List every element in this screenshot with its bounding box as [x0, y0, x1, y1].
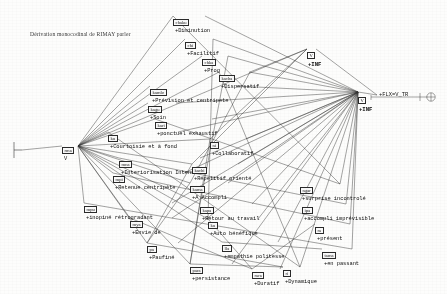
derivation-node[interactable]: pa+Paufiné: [147, 237, 174, 261]
root-tag: rma: [62, 147, 74, 154]
derivation-node[interactable]: para+persistance: [190, 258, 230, 282]
derivation-node[interactable]: ni+Collaboratif: [210, 133, 253, 157]
hub-upper-inf[interactable]: V +INF: [307, 43, 321, 68]
diagram-canvas: Dérivation monocodinal de RIMAY parler r…: [0, 0, 447, 294]
node-feature: +Dynamique: [285, 279, 317, 285]
derivation-node[interactable]: ri+Dynamique: [283, 261, 317, 285]
node-tag: ra: [315, 227, 324, 234]
node-tag: mpu: [84, 206, 97, 213]
derivation-node[interactable]: ra+présent: [315, 218, 342, 242]
node-feature: +en passant: [324, 261, 359, 267]
derivation-node[interactable]: ku+Auto bénéfique: [208, 213, 258, 237]
node-tag: pa: [147, 246, 157, 253]
node-feature: +Duratif: [254, 281, 279, 287]
node-tag: tama: [322, 252, 336, 259]
derivation-node[interactable]: ku+Courtoisie et à fond: [108, 126, 177, 150]
derivation-node[interactable]: rara+Duratif: [252, 263, 279, 287]
node-feature: +Courtoisie et à fond: [110, 144, 177, 150]
document-title: Dérivation monocodinal de RIMAY parler: [30, 31, 131, 37]
node-feature: +Prog: [204, 68, 220, 74]
node-tag: ipa: [302, 207, 313, 214]
node-feature: +Retenue centripète: [115, 185, 176, 191]
node-tag: kachi: [192, 167, 207, 174]
node-tag: rara: [252, 272, 264, 279]
hub-upper-tag: V: [307, 52, 315, 59]
node-tag: para: [190, 267, 203, 274]
node-tag: chi: [185, 42, 196, 49]
node-feature: +Paufiné: [149, 255, 174, 261]
node-feature: +Collaboratif: [212, 151, 253, 157]
node-feature: +présent: [317, 236, 342, 242]
root-node[interactable]: rma V: [62, 138, 74, 162]
derivation-node[interactable]: mya+Envie de: [130, 212, 161, 236]
node-feature: +persistance: [192, 276, 230, 282]
derivation-node[interactable]: lla+empathie politesse: [222, 236, 285, 260]
node-tag: mpi: [113, 176, 125, 183]
node-feature: +empathie politesse: [224, 254, 285, 260]
hub-right-feature: +INF: [359, 106, 372, 113]
node-tag: chaku: [173, 19, 189, 26]
root-feature: V: [64, 156, 74, 162]
node-tag: mya: [130, 221, 143, 228]
derivation-node[interactable]: tama+en passant: [322, 243, 359, 267]
node-tag: ngar: [300, 187, 313, 194]
node-tag: ku: [108, 135, 118, 142]
node-tag: ri: [283, 270, 291, 277]
node-tag: kamlo: [150, 89, 167, 96]
hub-right-inf[interactable]: V +INF: [358, 88, 372, 113]
derivation-node[interactable]: chaku+Diminution: [173, 10, 210, 34]
hub-right-tag: V: [358, 97, 366, 104]
node-tag: ku: [208, 222, 218, 229]
derivation-node[interactable]: mpi+Retenue centripète: [113, 167, 176, 191]
node-tag: kama: [190, 186, 205, 193]
node-feature: +Envie de: [132, 230, 161, 236]
terminal-feature: +FLX=V_TR: [379, 92, 408, 98]
node-tag: lla: [222, 245, 232, 252]
derivation-node[interactable]: chka+Prog: [202, 50, 220, 74]
node-tag: chka: [202, 59, 216, 66]
node-tag: ni: [210, 142, 219, 149]
hub-upper-feature: +INF: [308, 61, 321, 68]
